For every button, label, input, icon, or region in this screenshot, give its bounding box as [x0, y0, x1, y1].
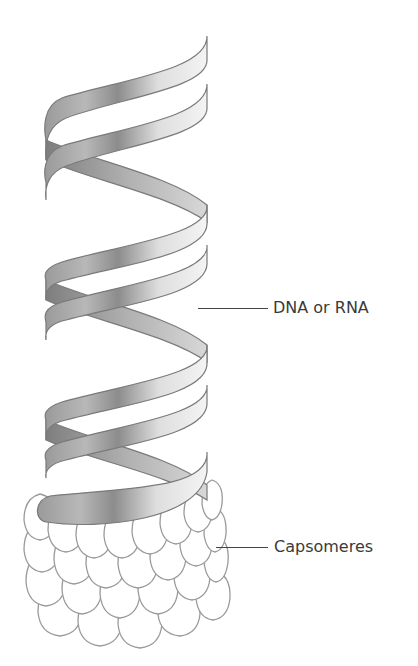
- dna-or-rna-label: DNA or RNA: [273, 300, 369, 316]
- dna-leader-line: [198, 308, 268, 309]
- capsomeres-leader-line: [216, 547, 268, 548]
- helical-virus-diagram: [0, 0, 418, 666]
- capsomeres-label: Capsomeres: [274, 539, 373, 555]
